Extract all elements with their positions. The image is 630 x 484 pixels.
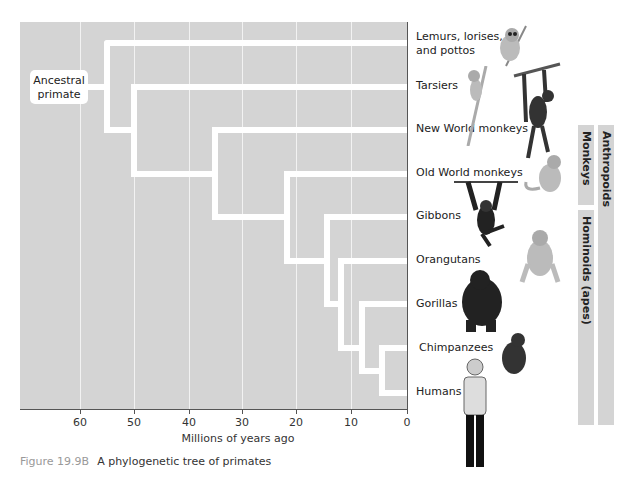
- clade-anthropoids-label: Anthropoids: [600, 131, 613, 207]
- tick-label: 40: [174, 416, 204, 429]
- branch-gorillas: [359, 301, 407, 307]
- clade-hominoids: Hominoids (apes): [578, 210, 594, 425]
- branch-node-35: [212, 127, 218, 220]
- taxon-tarsiers: Tarsiers: [416, 79, 458, 93]
- taxon-orangutans: Orangutans: [416, 253, 481, 267]
- branch-node-55: [104, 40, 110, 133]
- branch-chimpanzees: [379, 345, 407, 351]
- x-axis-label: Millions of years ago: [168, 432, 308, 445]
- branch-to-node-22: [212, 214, 287, 220]
- tick-20: [296, 409, 297, 414]
- branch-tarsiers: [131, 84, 407, 90]
- orangutan-illustration: [518, 228, 562, 286]
- clade-hominoids-label: Hominoids (apes): [580, 216, 593, 325]
- gridline-50: [134, 22, 135, 409]
- branch-humans: [379, 390, 407, 396]
- gibbon-illustration: [454, 180, 520, 248]
- tick-label: 50: [119, 416, 149, 429]
- branch-node-12: [338, 258, 344, 351]
- taxon-humans: Humans: [416, 385, 461, 399]
- branch-to-node-15: [284, 258, 327, 264]
- taxon-lemurs: Lemurs, lorises, and pottos: [416, 30, 503, 58]
- taxon-gorillas: Gorillas: [416, 297, 457, 311]
- tick-label: 60: [65, 416, 95, 429]
- branch-old-world-monkeys: [284, 171, 407, 177]
- gridline-40: [189, 22, 190, 409]
- chimpanzee-illustration: [500, 330, 530, 378]
- tick-40: [189, 409, 190, 414]
- tick-label: 30: [227, 416, 257, 429]
- tick-label: 20: [281, 416, 311, 429]
- branch-node-50: [131, 84, 137, 177]
- branch-to-node-50: [104, 127, 134, 133]
- tick-label: 0: [392, 416, 422, 429]
- tarsier-illustration: [462, 66, 492, 146]
- x-axis: [20, 409, 408, 410]
- tick-30: [242, 409, 243, 414]
- taxon-label-line: and pottos: [416, 44, 503, 58]
- tick-0: [407, 409, 408, 414]
- taxon-old-world-monkeys: Old World monkeys: [416, 166, 523, 180]
- branch-node-5: [379, 345, 385, 396]
- root-label-line-1: Ancestral: [30, 74, 88, 88]
- clade-monkeys-label: Monkeys: [580, 131, 593, 186]
- clade-anthropoids: Anthropoids: [598, 125, 614, 425]
- old-world-monkey-illustration: [520, 152, 570, 196]
- branch-node-15: [324, 214, 330, 307]
- branch-to-node-35: [131, 171, 215, 177]
- branch-new-world-monkeys: [212, 127, 407, 133]
- branch-node-8: [359, 301, 365, 374]
- tick-60: [80, 409, 81, 414]
- taxon-label-line: Lemurs, lorises,: [416, 30, 503, 44]
- gridline-20: [296, 22, 297, 409]
- figure-number: Figure 19.9B: [20, 455, 89, 468]
- branch-orangutans: [338, 258, 407, 264]
- tick-label: 10: [336, 416, 366, 429]
- branch-node-22: [284, 171, 290, 264]
- human-illustration: [458, 357, 492, 473]
- figure-caption: Figure 19.9BA phylogenetic tree of prima…: [20, 455, 271, 468]
- tick-50: [134, 409, 135, 414]
- ancestral-primate-label: Ancestral primate: [30, 70, 88, 104]
- gorilla-illustration: [458, 268, 506, 334]
- present-day-line: [407, 22, 408, 414]
- branch-lemurs: [104, 40, 407, 46]
- taxon-chimpanzees: Chimpanzees: [419, 341, 493, 355]
- clade-monkeys: Monkeys: [578, 125, 594, 205]
- caption-text: A phylogenetic tree of primates: [97, 455, 271, 468]
- branch-gibbons: [324, 214, 407, 220]
- tick-10: [351, 409, 352, 414]
- new-world-monkey-illustration: [512, 62, 562, 162]
- root-label-line-2: primate: [30, 88, 88, 102]
